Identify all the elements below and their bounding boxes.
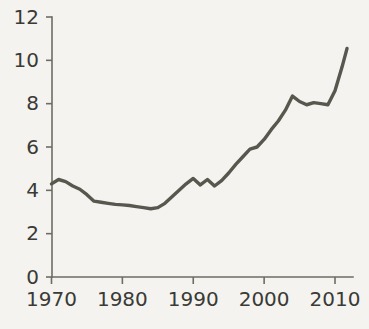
x-tick-label-2000: 2000 [239,287,290,311]
x-tick-label-2010: 2010 [310,287,361,311]
line-chart: 024681012 19701980199020002010 [0,0,369,329]
y-tick-label-4: 4 [26,178,39,202]
x-tick-label-1990: 1990 [168,287,219,311]
x-axis-tick-labels: 19701980199020002010 [26,287,360,311]
y-tick-label-8: 8 [26,91,39,115]
y-tick-label-0: 0 [26,265,39,289]
x-tick-label-1970: 1970 [26,287,77,311]
chart-container: 024681012 19701980199020002010 [0,0,369,329]
chart-background [0,0,369,329]
y-tick-label-12: 12 [14,5,39,29]
y-tick-label-10: 10 [14,48,39,72]
y-tick-label-2: 2 [26,221,39,245]
x-tick-label-1980: 1980 [97,287,148,311]
y-tick-label-6: 6 [26,135,39,159]
